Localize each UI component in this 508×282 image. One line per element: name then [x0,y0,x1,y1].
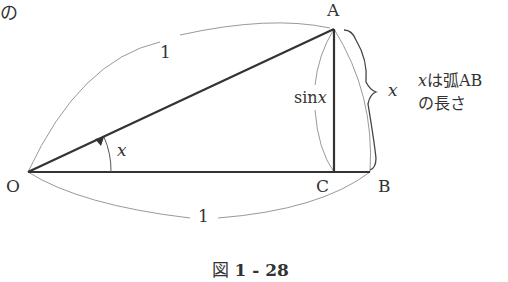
segment-OA [28,29,334,172]
radius-arc-top [28,42,160,172]
radius-label-top: 1 [160,42,171,62]
angle-label: x [117,140,127,160]
sin-var: x [318,88,327,107]
caption-number: 1 - 28 [234,260,288,280]
radius-arc-bottom [28,172,190,218]
sin-bracket-arc-bottom [315,110,334,172]
radius-arc-top-right [180,23,330,35]
diagram-canvas [0,0,508,282]
note-line-1: xは弧AB [418,67,482,91]
caption-prefix: 図 [212,260,229,280]
arc-AB [334,29,371,172]
note-rest: は弧AB [427,71,482,90]
corner-text: の [0,0,18,24]
arc-length-label: x [388,80,398,100]
sin-label: sinx [294,88,327,107]
figure-caption: 図 1 - 28 [212,256,289,281]
angle-arc [104,137,111,172]
point-A-label: A [327,0,339,20]
sin-prefix: sin [294,88,318,107]
curly-brace [344,30,376,170]
radius-label-bottom: 1 [198,206,209,226]
note-var: x [418,71,427,90]
point-B-label: B [378,176,391,196]
angle-arrowhead-icon [95,137,104,146]
point-C-label: C [316,176,329,196]
note-line-2: の長さ [418,90,466,114]
point-O-label: O [6,176,20,196]
radius-arc-bottom-right [218,172,370,218]
